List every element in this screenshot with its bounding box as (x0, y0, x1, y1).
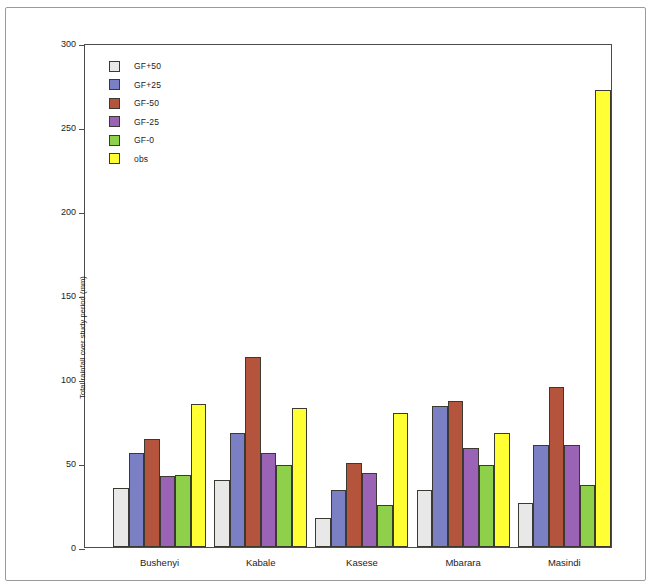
x-tick-label-bushenyi: Bushenyi (140, 557, 179, 568)
y-tick-label: 300 (61, 39, 76, 49)
bar-bushenyi-gf+25 (129, 453, 145, 547)
bar-masindi-gf-25 (564, 445, 580, 547)
bar-kabale-gf-50 (245, 357, 261, 547)
legend-item-gf-0: GF-0 (109, 131, 161, 150)
bar-kasese-gf-50 (346, 463, 362, 547)
legend-label: GF-0 (134, 135, 154, 145)
bar-kasese-gf+25 (331, 490, 347, 547)
bar-bushenyi-gf-25 (160, 476, 176, 547)
bar-kasese-gf-0 (377, 505, 393, 547)
legend-item-gf+25: GF+25 (109, 76, 161, 95)
x-tick-label-kabale: Kabale (246, 557, 276, 568)
legend-item-gf-25: GF-25 (109, 113, 161, 132)
bar-mbarara-gf-25 (463, 448, 479, 547)
bar-kabale-gf+50 (214, 480, 230, 547)
y-tick-label: 250 (61, 123, 76, 133)
legend-swatch-icon (109, 116, 120, 127)
plot-area: Total rainfall over study period (mm) 30… (84, 44, 612, 548)
y-tick-label: 100 (61, 375, 76, 385)
y-tick-label: 50 (66, 459, 76, 469)
x-tick-label-masindi: Masindi (548, 557, 581, 568)
legend-label: GF+50 (134, 61, 161, 71)
bar-bushenyi-gf+50 (113, 488, 129, 547)
bar-mbarara-obs (494, 433, 510, 547)
y-tick-label: 150 (61, 291, 76, 301)
bar-bushenyi-obs (191, 404, 207, 547)
legend-label: GF-25 (134, 117, 159, 127)
legend-item-gf+50: GF+50 (109, 57, 161, 76)
legend-swatch-icon (109, 98, 120, 109)
legend-item-obs: obs (109, 150, 161, 169)
bar-mbarara-gf+25 (432, 406, 448, 547)
bar-masindi-obs (595, 90, 611, 547)
legend-label: GF+25 (134, 80, 161, 90)
legend-swatch-icon (109, 61, 120, 72)
bar-mbarara-gf-50 (448, 401, 464, 547)
bar-masindi-gf-50 (549, 387, 565, 547)
bar-series-layer (85, 45, 611, 547)
legend-label: GF-50 (134, 98, 159, 108)
legend-swatch-icon (109, 135, 120, 146)
x-tick-label-kasese: Kasese (346, 557, 378, 568)
legend-label: obs (134, 154, 148, 164)
bar-kasese-gf+50 (315, 518, 331, 547)
bar-masindi-gf+50 (518, 503, 534, 547)
bar-kabale-gf-25 (261, 453, 277, 547)
y-tick-label: 200 (61, 207, 76, 217)
bar-kabale-gf-0 (276, 465, 292, 547)
bar-bushenyi-gf-50 (144, 439, 160, 547)
legend-swatch-icon (109, 153, 120, 164)
bar-kabale-gf+25 (230, 433, 246, 547)
x-tick-label-mbarara: Mbarara (445, 557, 480, 568)
bar-mbarara-gf+50 (417, 490, 433, 547)
bar-kasese-obs (393, 413, 409, 547)
bar-masindi-gf-0 (580, 485, 596, 547)
legend-item-gf-50: GF-50 (109, 94, 161, 113)
y-tick-label: 0 (71, 543, 76, 553)
bar-kabale-obs (292, 408, 308, 547)
bar-mbarara-gf-0 (479, 465, 495, 547)
chart-legend: GF+50GF+25GF-50GF-25GF-0obs (109, 57, 161, 168)
legend-swatch-icon (109, 79, 120, 90)
figure-container: Total rainfall over study period (mm) 30… (0, 0, 651, 588)
bar-bushenyi-gf-0 (175, 475, 191, 547)
bar-kasese-gf-25 (362, 473, 378, 547)
bar-masindi-gf+25 (533, 445, 549, 547)
